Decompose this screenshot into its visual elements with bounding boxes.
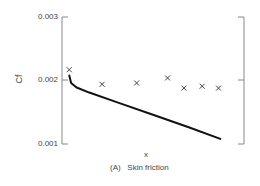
figure-caption: (A) Skin friction (110, 163, 169, 172)
plot-area (0, 0, 260, 186)
left-y-axis (62, 17, 68, 144)
predicted-line (69, 75, 220, 139)
x-marker-icon (165, 75, 170, 80)
x-marker-icon (134, 81, 139, 86)
y-axis-label: Cf (14, 75, 24, 84)
x-marker-icon (67, 67, 72, 72)
y-tick-0.003: 0.003 (24, 12, 58, 21)
skin-friction-chart: 0.003 0.002 0.001 Cf x (A) Skin friction (0, 0, 260, 186)
x-marker-icon (200, 84, 205, 89)
measured-points (67, 67, 221, 90)
x-marker-icon (216, 86, 221, 91)
x-marker-icon (100, 82, 105, 87)
y-tick-0.001: 0.001 (24, 139, 58, 148)
right-bracket-axis (238, 17, 244, 144)
x-axis-label: x (144, 150, 148, 159)
predicted-curve (69, 75, 220, 139)
y-tick-0.002: 0.002 (24, 75, 58, 84)
x-marker-icon (181, 86, 186, 91)
